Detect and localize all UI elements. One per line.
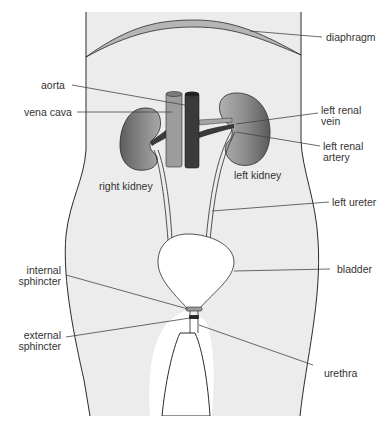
label-external-sphincter-line2: sphincter [17, 341, 61, 352]
aorta [185, 93, 199, 168]
external-sphincter [189, 315, 199, 319]
label-left-renal-artery-line2: artery [323, 152, 363, 163]
label-vena-cava: vena cava [24, 107, 72, 118]
label-left-ureter: left ureter [332, 197, 376, 208]
label-bladder: bladder [337, 264, 372, 275]
label-right-kidney: right kidney [99, 181, 153, 192]
label-external-sphincter: external sphincter [17, 330, 61, 352]
label-left-kidney: left kidney [234, 170, 281, 181]
label-urethra: urethra [324, 368, 357, 379]
label-left-renal-artery: left renal artery [323, 141, 363, 163]
label-aorta: aorta [41, 80, 65, 91]
label-left-renal-vein-line2: vein [321, 116, 361, 127]
label-diaphragm: diaphragm [326, 32, 376, 43]
leg-gap [162, 333, 210, 416]
label-internal-sphincter-line2: sphincter [17, 276, 61, 287]
label-internal-sphincter: internal sphincter [17, 265, 61, 287]
label-left-renal-vein: left renal vein [321, 105, 361, 127]
internal-sphincter [186, 307, 202, 311]
